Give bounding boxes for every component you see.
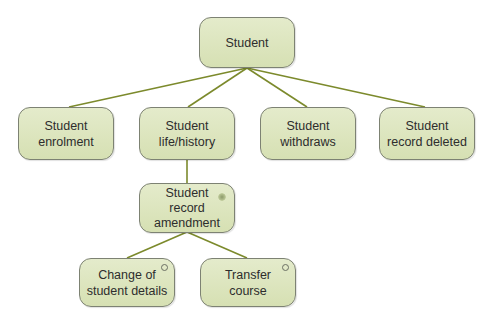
node-student-record-deleted: Student record deleted (379, 107, 475, 160)
edge-amendment-transfer-course (187, 232, 247, 258)
node-label: Student enrolment (38, 118, 94, 150)
circle-marker-icon (282, 264, 289, 271)
circle-marker-icon (161, 264, 168, 271)
asterisk-marker-icon (218, 193, 226, 201)
node-label: Transfer course (225, 267, 271, 299)
node-label: Student withdraws (280, 118, 336, 150)
edge-root-record-deleted (247, 68, 425, 107)
node-label: Student (225, 35, 268, 51)
node-student-withdraws: Student withdraws (260, 107, 356, 160)
node-label: Student life/history (159, 118, 215, 150)
edge-amendment-change-details (127, 232, 187, 258)
node-student: Student (199, 17, 295, 68)
node-label: Student record deleted (387, 118, 467, 150)
node-transfer-course: Transfer course (200, 258, 296, 307)
edge-root-enrolment (69, 68, 247, 107)
node-student-life-history: Student life/history (139, 107, 235, 160)
node-label: Student record amendment (154, 186, 220, 231)
node-label: Change of student details (87, 267, 168, 299)
node-change-of-student-details: Change of student details (79, 258, 175, 307)
node-student-record-amendment: Student record amendment (139, 183, 235, 233)
node-student-enrolment: Student enrolment (18, 107, 114, 160)
